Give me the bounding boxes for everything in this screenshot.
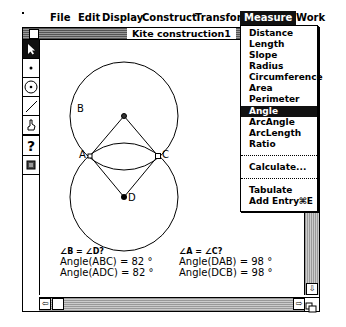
segment-tool[interactable] — [23, 97, 39, 116]
measure-angle-abc[interactable]: Angle(ABC) = 82 ° — [60, 256, 153, 267]
menu-file[interactable]: File — [50, 11, 70, 25]
menu-item-ratio[interactable]: Ratio — [241, 139, 317, 150]
circle-icon — [24, 80, 38, 94]
text-tool[interactable] — [23, 116, 39, 136]
menu-display[interactable]: Display — [102, 11, 143, 25]
scroll-left-arrow-icon[interactable]: ⇦ — [39, 298, 51, 310]
menu-item-tabulate[interactable]: Tabulate — [241, 185, 317, 196]
question-mark-icon: ? — [27, 138, 35, 154]
point-b — [122, 114, 127, 119]
horizontal-scroll-thumb[interactable] — [52, 298, 64, 310]
menu-item-area[interactable]: Area — [241, 83, 317, 94]
circle-tool[interactable] — [23, 78, 39, 97]
label-d[interactable]: D — [128, 192, 136, 203]
menu-edit[interactable]: Edit — [78, 11, 100, 25]
menu-item-calculate[interactable]: Calculate... — [241, 162, 317, 173]
point-c — [156, 154, 161, 159]
caption-a-equals-c[interactable]: ∠A = ∠C? — [179, 247, 272, 256]
resize-icon — [305, 302, 317, 313]
menu-item-arcangle[interactable]: ArcAngle — [241, 117, 317, 128]
menu-item-angle[interactable]: Angle — [241, 106, 317, 117]
menu-work[interactable]: Work — [296, 11, 325, 25]
measurement-group-left: ∠B = ∠D? Angle(ABC) = 82 ° Angle(ADC) = … — [60, 247, 153, 278]
point-icon — [26, 63, 36, 73]
label-b[interactable]: B — [77, 103, 84, 114]
segment-icon — [24, 99, 38, 113]
label-a[interactable]: A — [79, 149, 86, 160]
menu-separator — [241, 155, 317, 156]
measure-menu-dropdown: Distance Length Slope Radius Circumferen… — [240, 25, 318, 212]
arrow-tool[interactable] — [23, 40, 39, 59]
measurement-group-right: ∠A = ∠C? Angle(DAB) = 98 ° Angle(DCB) = … — [179, 247, 272, 278]
caption-b-equals-d[interactable]: ∠B = ∠D? — [60, 247, 153, 256]
close-box[interactable] — [29, 29, 39, 39]
command-e-shortcut: ⌘E — [299, 196, 314, 207]
measure-angle-dcb[interactable]: Angle(DCB) = 98 ° — [179, 267, 272, 278]
horizontal-scrollbar[interactable]: ⇦ ⇨ — [39, 297, 305, 311]
point-tool[interactable] — [23, 59, 39, 78]
script-icon — [25, 159, 37, 171]
scroll-down-arrow-icon[interactable]: ⇩ — [306, 283, 318, 295]
hand-pencil-icon — [25, 118, 37, 132]
measure-angle-dab[interactable]: Angle(DAB) = 98 ° — [179, 256, 272, 267]
menu-separator — [241, 178, 317, 179]
add-entry-label: Add Entry — [249, 196, 299, 206]
menubar: File Edit Display Construct Transform Me… — [30, 11, 330, 25]
size-box[interactable] — [304, 297, 319, 311]
menu-item-circumference[interactable]: Circumference — [241, 72, 317, 83]
point-d — [121, 194, 127, 200]
menu-item-perimeter[interactable]: Perimeter — [241, 94, 317, 105]
arrow-icon — [26, 43, 36, 55]
menu-item-slope[interactable]: Slope — [241, 50, 317, 61]
label-c[interactable]: C — [162, 149, 169, 160]
menu-item-distance[interactable]: Distance — [241, 28, 317, 39]
menu-item-radius[interactable]: Radius — [241, 61, 317, 72]
menu-item-arclength[interactable]: ArcLength — [241, 128, 317, 139]
window-title: Kite construction1 — [127, 28, 236, 39]
menubar-artifact-dot — [22, 12, 24, 14]
info-tool[interactable]: ? — [23, 137, 39, 156]
toolbox: ? — [23, 40, 40, 295]
point-a — [88, 154, 92, 158]
measure-angle-adc[interactable]: Angle(ADC) = 82 ° — [60, 267, 153, 278]
script-tool[interactable] — [23, 156, 39, 175]
menu-item-length[interactable]: Length — [241, 39, 317, 50]
menu-item-add-entry[interactable]: Add Entry ⌘E — [241, 196, 317, 207]
menu-measure[interactable]: Measure — [240, 11, 296, 25]
menu-construct[interactable]: Construct — [142, 11, 197, 25]
